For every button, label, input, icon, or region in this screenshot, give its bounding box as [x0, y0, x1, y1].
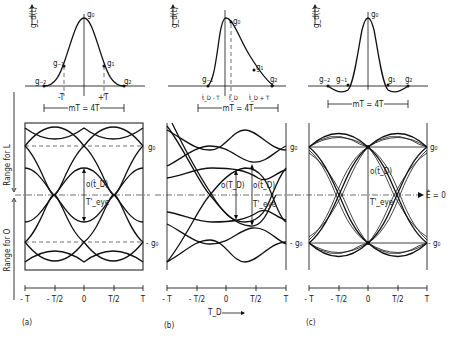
pulse-c-span: mT = 4T	[353, 100, 385, 109]
pulse-b-sample: g₂	[270, 75, 278, 84]
x-tick: - T/2	[331, 295, 347, 304]
eye-c: o(t̂_D) T'_eye g₀ Ê = 0 - g₀	[295, 123, 446, 270]
x-tick: T	[424, 295, 430, 304]
eye-a-level-high: g₀	[148, 143, 156, 152]
caption-a: (a)	[22, 318, 32, 327]
pulse-a-sample: g₁	[107, 59, 115, 68]
pulse-a: g_d(t) g₀ g₋₂ g₋₁ g₁ g₂ -T +T mT = 4T	[25, 4, 145, 113]
range-axis: Range for L Range for O	[3, 92, 16, 300]
eye-c-eyewidth: T'_eye	[369, 198, 394, 207]
pulse-b-sample: g₁	[256, 63, 264, 72]
x-tick: 0	[82, 295, 87, 304]
x-tick: - T	[20, 295, 30, 304]
pulse-a-span: mT = 4T	[69, 104, 101, 113]
x-tick: T	[140, 295, 146, 304]
panel-c: g_d(t) g₀ g₋₂ g₋₁ g₁ g₂ mT = 4T	[295, 4, 446, 327]
pulse-c: g_d(t) g₀ g₋₂ g₋₁ g₁ g₂ mT = 4T	[308, 4, 428, 109]
pulse-c-sample: g₁	[388, 75, 396, 84]
panel-b: g_d(t) g₀ g₋₁ g₁ g₂ t̂_D - T t̂_D t̂_D +…	[155, 4, 302, 330]
range-for-l-label: Range for L	[3, 144, 12, 185]
eye-c-opening: o(t̂_D)	[370, 166, 392, 176]
caption-b: (b)	[164, 321, 174, 330]
pulse-a-peak: g₀	[87, 10, 95, 19]
pulse-a-tick: +T	[98, 93, 109, 102]
time-axis-b: - T - T/2 0 T/2 T T_D (b)	[162, 285, 288, 330]
x-tick: - T/2	[189, 295, 205, 304]
eye-a: o(t̂_D) T'_eye g₀ - g₀	[15, 123, 158, 270]
eye-a-level-low: - g₀	[146, 239, 158, 248]
pulse-a-sample: g₋₂	[35, 77, 46, 86]
pulse-c-ylabel: g_d(t)	[312, 7, 321, 28]
eye-b-opening-2: o(t̂_D)	[253, 180, 275, 190]
x-tick: T	[283, 295, 289, 304]
panel-a: g_d(t) g₀ g₋₂ g₋₁ g₁ g₂ -T +T mT = 4T	[15, 4, 158, 327]
pulse-c-peak: g₀	[371, 10, 379, 19]
x-axis-label-b: T_D	[207, 308, 222, 317]
eye-c-threshold: Ê = 0	[426, 189, 446, 200]
x-tick: 0	[366, 295, 371, 304]
pulse-b-ylabel: g_d(t)	[170, 7, 179, 28]
pulse-b-tick: t̂_D + T	[248, 94, 270, 102]
eye-a-eyewidth: T'_eye	[85, 198, 110, 207]
eye-b-level-low: - g₀	[290, 239, 302, 248]
eye-b: o(T_D) o(t̂_D) T'_eye g₀ - g₀	[155, 123, 302, 270]
x-tick: - T/2	[47, 295, 63, 304]
pulse-b-span: mT = 4T	[223, 104, 255, 113]
pulse-a-ylabel: g_d(t)	[29, 7, 38, 28]
eye-b-opening-1: o(T_D)	[221, 181, 245, 190]
x-tick: T/2	[249, 295, 261, 304]
time-axis-a: - T - T/2 0 T/2 T (a)	[20, 285, 145, 327]
pulse-c-sample: g₋₂	[319, 75, 330, 84]
pulse-b-tick: t̂_D - T	[201, 94, 220, 102]
x-tick: - T	[162, 295, 172, 304]
eye-c-level-low: - g₀	[428, 239, 440, 248]
eye-diagram-figure: Range for L Range for O g_d(t) g₀ g₋₂ g₋…	[0, 0, 455, 339]
pulse-b-sample: g₋₁	[202, 75, 213, 84]
eye-a-opening: o(t̂_D)	[86, 179, 108, 189]
range-for-o-label: Range for O	[3, 228, 12, 271]
time-axis-c: - T - T/2 0 T/2 T (c)	[304, 285, 429, 327]
pulse-c-sample: g₋₁	[336, 75, 347, 84]
pulse-c-sample: g₂	[405, 75, 413, 84]
pulse-a-sample: g₂	[124, 77, 132, 86]
pulse-b: g_d(t) g₀ g₋₁ g₁ g₂ t̂_D - T t̂_D t̂_D +…	[168, 4, 286, 113]
x-tick: - T	[304, 295, 314, 304]
x-tick: T/2	[391, 295, 403, 304]
x-tick: 0	[224, 295, 229, 304]
pulse-a-sample: g₋₁	[53, 59, 64, 68]
eye-b-eyewidth: T'_eye	[252, 200, 277, 209]
pulse-b-peak: g₀	[233, 17, 241, 26]
x-tick: T/2	[107, 295, 119, 304]
pulse-a-tick: -T	[58, 93, 65, 102]
pulse-b-tick: t̂_D	[228, 94, 238, 102]
caption-c: (c)	[306, 318, 316, 327]
eye-b-level-high: g₀	[290, 143, 298, 152]
eye-c-level-high: g₀	[430, 143, 438, 152]
